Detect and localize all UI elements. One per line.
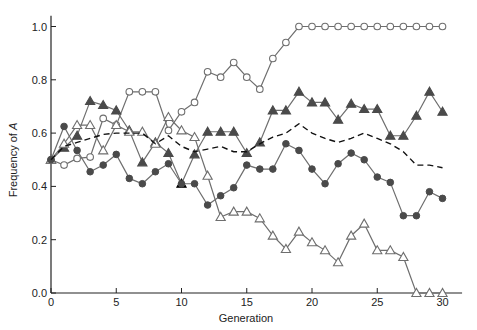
data-point — [413, 212, 420, 219]
x-axis-label: Generation — [219, 312, 273, 324]
data-point — [138, 158, 147, 166]
data-point — [413, 23, 420, 30]
data-point — [322, 23, 329, 30]
data-point — [270, 166, 277, 173]
data-point — [217, 74, 224, 81]
data-point — [374, 174, 381, 181]
data-point — [178, 180, 185, 187]
series-open-circle — [48, 23, 446, 168]
data-point — [152, 88, 159, 95]
data-point — [204, 69, 211, 76]
data-point — [204, 202, 211, 209]
x-tick-label: 5 — [113, 296, 119, 308]
data-point — [360, 219, 369, 227]
data-point — [400, 212, 407, 219]
data-point — [294, 87, 303, 95]
data-point — [412, 111, 421, 119]
x-tick-label: 15 — [241, 296, 253, 308]
data-point — [99, 146, 108, 154]
data-point — [100, 115, 107, 122]
data-point — [439, 195, 446, 202]
data-point — [74, 147, 81, 154]
data-point — [439, 23, 446, 30]
series-open-triangle — [46, 113, 447, 297]
data-point — [309, 23, 316, 30]
data-point — [112, 106, 121, 114]
y-tick-label: 0.2 — [32, 234, 47, 246]
x-tick-label: 0 — [48, 296, 54, 308]
data-point — [191, 180, 198, 187]
data-point — [347, 99, 356, 107]
data-point — [164, 113, 173, 121]
data-point — [61, 123, 68, 130]
data-point — [165, 160, 172, 167]
y-tick-label: 0.6 — [32, 127, 47, 139]
data-point — [387, 179, 394, 186]
data-point — [217, 192, 224, 199]
data-point — [73, 131, 82, 139]
data-point — [283, 140, 290, 147]
data-point — [320, 246, 329, 254]
data-point — [100, 162, 107, 169]
data-point — [257, 86, 264, 93]
data-point — [294, 227, 303, 235]
data-point — [178, 108, 185, 115]
x-tick-label: 30 — [436, 296, 448, 308]
y-tick-label: 0.8 — [32, 74, 47, 86]
data-point — [87, 154, 94, 161]
data-point — [165, 127, 172, 134]
data-point — [296, 23, 303, 30]
data-point — [139, 88, 146, 95]
data-point — [243, 74, 250, 81]
data-point — [400, 23, 407, 30]
data-point — [270, 55, 277, 62]
data-point — [191, 99, 198, 106]
data-point — [139, 180, 146, 187]
chart: 0.00.20.40.60.81.0051015202530 Generatio… — [0, 0, 477, 330]
x-tick-label: 20 — [306, 296, 318, 308]
data-point — [74, 155, 81, 162]
data-point — [113, 151, 120, 158]
data-point — [361, 156, 368, 163]
y-tick-label: 0.0 — [32, 287, 47, 299]
data-point — [86, 97, 95, 105]
mean-line — [51, 124, 443, 168]
data-point — [255, 214, 264, 222]
data-point — [348, 23, 355, 30]
data-point — [230, 184, 237, 191]
data-point — [61, 162, 68, 169]
data-point — [426, 188, 433, 195]
data-point — [335, 160, 342, 167]
data-point — [438, 107, 447, 115]
data-point — [348, 150, 355, 157]
data-point — [309, 166, 316, 173]
data-point — [361, 23, 368, 30]
data-point — [335, 23, 342, 30]
data-point — [126, 175, 133, 182]
data-point — [243, 162, 250, 169]
data-point — [283, 39, 290, 46]
data-point — [322, 180, 329, 187]
x-tick-label: 10 — [175, 296, 187, 308]
data-point — [230, 59, 237, 66]
data-point — [126, 88, 133, 95]
data-point — [203, 171, 212, 179]
data-point — [257, 166, 264, 173]
data-point — [425, 87, 434, 95]
plot-series — [46, 23, 447, 296]
y-axis-label: Frequency of A — [7, 123, 19, 198]
data-point — [374, 23, 381, 30]
data-point — [152, 168, 159, 175]
series-filled-triangle — [46, 87, 447, 187]
data-point — [426, 23, 433, 30]
series-none — [51, 124, 443, 168]
data-point — [387, 23, 394, 30]
data-point — [216, 212, 225, 220]
data-point — [87, 168, 94, 175]
y-tick-label: 1.0 — [32, 21, 47, 33]
data-point — [190, 132, 199, 140]
data-point — [296, 147, 303, 154]
data-point — [399, 252, 408, 260]
y-tick-label: 0.4 — [32, 180, 47, 192]
x-tick-label: 25 — [371, 296, 383, 308]
